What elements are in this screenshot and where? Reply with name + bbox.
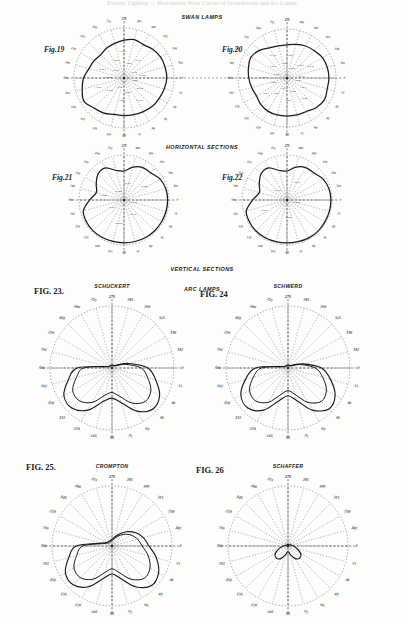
degree-label: 165	[65, 91, 71, 96]
degree-label: 300	[319, 305, 326, 309]
degree-label: 60	[321, 426, 326, 431]
degree-label: 105	[270, 131, 275, 135]
radial-gridline	[81, 314, 112, 368]
radial-gridline	[92, 168, 124, 200]
degree-label: 60	[145, 426, 150, 431]
degree-label: 225	[243, 34, 250, 40]
degree-label: 90	[285, 251, 289, 255]
radial-gridline	[258, 546, 288, 598]
degree-label: 345	[177, 60, 184, 65]
radial-gridline	[70, 546, 112, 588]
degree-label: 315	[324, 35, 330, 40]
section-title-swan-lamps: SWAN LAMPS	[182, 14, 223, 20]
measurement-value: 0.993	[294, 181, 301, 184]
radial-gridline	[275, 157, 287, 200]
degree-label: 135	[244, 116, 249, 120]
degree-label: 90	[110, 612, 114, 616]
measurement-value: 1.003	[273, 92, 280, 95]
degree-label: 255	[105, 18, 112, 24]
radial-gridline	[68, 368, 112, 412]
degree-label: 15	[174, 211, 178, 216]
degree-label: 75	[127, 610, 132, 615]
degree-label: 240	[255, 25, 262, 31]
degree-label: 255	[90, 477, 98, 483]
degree-label: 225	[58, 315, 66, 321]
degree-label: 120	[92, 126, 97, 130]
radial-gridline	[245, 78, 287, 103]
radial-gridline	[288, 314, 319, 368]
degree-label: 330	[171, 46, 178, 51]
radial-gridline	[252, 43, 287, 78]
degree-label: 0	[357, 366, 360, 370]
measurement-value: 1.050	[125, 62, 132, 65]
maker-label: SCHAFFER	[273, 463, 304, 469]
radial-gridline	[124, 200, 136, 243]
radial-gridline	[288, 352, 348, 368]
radial-gridline	[112, 157, 124, 200]
radial-gridline	[96, 488, 112, 546]
radial-gridline	[112, 504, 154, 546]
degree-label: 210	[70, 46, 77, 51]
degree-label: 330	[330, 171, 337, 176]
radial-gridline	[81, 200, 124, 212]
measurement-value: 1.050	[289, 67, 296, 70]
degree-label: 180	[216, 543, 223, 548]
degree-label: 315	[332, 495, 339, 500]
measurement-value: 0.958	[297, 64, 304, 67]
radial-gridline	[246, 504, 288, 546]
degree-label: 330	[345, 330, 352, 335]
degree-label: 75	[303, 610, 308, 615]
radial-gridline	[124, 200, 147, 239]
degree-label: 315	[158, 316, 165, 321]
degree-label: 150	[224, 401, 230, 406]
degree-label: 75	[136, 249, 141, 254]
figure-fig23: 0153045607590105120135150165180195210225…	[34, 283, 184, 440]
degree-label: 0	[343, 76, 346, 80]
measurement-value: 0.970	[131, 201, 138, 204]
radial-gridline	[288, 494, 318, 546]
degree-label: 270	[121, 144, 127, 148]
degree-label: 135	[80, 117, 85, 121]
measurement-value: 1.026	[287, 54, 294, 57]
radial-gridline	[96, 308, 112, 368]
degree-label: 120	[74, 427, 80, 431]
degree-label: 15	[352, 561, 357, 566]
degree-label: 240	[94, 150, 101, 156]
radial-gridline	[255, 168, 287, 200]
degree-label: 30	[334, 104, 339, 109]
radial-gridline	[124, 200, 156, 232]
degree-label: 0	[179, 544, 182, 548]
degree-label: 330	[169, 330, 176, 335]
measurement-value: 0.989	[270, 54, 277, 57]
degree-label: 30	[168, 577, 174, 582]
figure-fig20: 0153045607590105120135150165180195210225…	[222, 18, 346, 137]
degree-label: 345	[352, 347, 359, 352]
radial-gridline	[124, 78, 137, 126]
degree-label: 270	[284, 475, 291, 479]
maker-label: SCHWERD	[274, 283, 303, 289]
degree-label: 45	[159, 235, 164, 240]
radial-gridline	[246, 546, 288, 588]
measurement-value: 0.944	[101, 194, 108, 197]
measurement-value: 1.004	[281, 62, 288, 65]
radial-gridline	[288, 546, 340, 576]
degree-label: 30	[172, 104, 177, 109]
degree-label: 270	[121, 17, 127, 21]
degree-label: 90	[285, 133, 289, 137]
measurement-value: 0.986	[125, 91, 132, 94]
radial-gridline	[228, 352, 288, 368]
degree-label: 210	[48, 509, 56, 515]
measurement-value: 1.101	[119, 50, 126, 53]
radial-gridline	[85, 200, 124, 223]
degree-label: 45	[162, 116, 167, 121]
degree-label: 60	[151, 126, 156, 131]
measurement-value: 1.000	[132, 79, 139, 82]
degree-label: 90	[286, 612, 290, 616]
degree-label: 15	[337, 211, 341, 216]
measurement-value: 0.922	[106, 89, 113, 92]
degree-label: 180	[63, 75, 69, 80]
degree-label: 285	[299, 20, 305, 24]
degree-label: 60	[320, 603, 325, 608]
degree-label: 195	[229, 60, 235, 65]
degree-label: 345	[335, 183, 342, 188]
